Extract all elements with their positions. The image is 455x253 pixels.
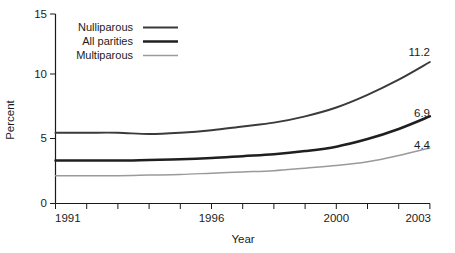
chart-legend: Nulliparous All parities Multiparous bbox=[76, 21, 178, 61]
y-tick-label-15: 15 bbox=[34, 8, 47, 20]
x-tick-label-1991: 1991 bbox=[55, 212, 81, 224]
y-tick-label-5: 5 bbox=[41, 132, 47, 144]
legend-label-multiparous: Multiparous bbox=[76, 49, 133, 61]
x-tick-label-1996: 1996 bbox=[199, 212, 225, 224]
end-label-all-parities: 6.9 bbox=[414, 107, 430, 119]
series-line-all-parities bbox=[56, 116, 430, 160]
x-tick-label-2003: 2003 bbox=[405, 212, 431, 224]
x-tick-label-2000: 2000 bbox=[324, 212, 350, 224]
line-chart-figure: Percent 15 10 5 0 1 bbox=[0, 0, 455, 253]
legend-label-nulliparous: Nulliparous bbox=[78, 21, 134, 33]
y-axis-title: Percent bbox=[4, 99, 16, 139]
end-label-nulliparous: 11.2 bbox=[408, 46, 430, 58]
series-line-nulliparous bbox=[56, 62, 430, 134]
end-label-multiparous: 4.4 bbox=[414, 139, 431, 151]
x-axis-ticks bbox=[56, 204, 430, 210]
x-axis-title: Year bbox=[231, 233, 254, 245]
legend-label-all-parities: All parities bbox=[82, 35, 133, 47]
y-tick-label-10: 10 bbox=[34, 68, 47, 80]
chart-svg: Percent 15 10 5 0 1 bbox=[0, 0, 455, 253]
y-tick-label-0: 0 bbox=[41, 197, 47, 209]
